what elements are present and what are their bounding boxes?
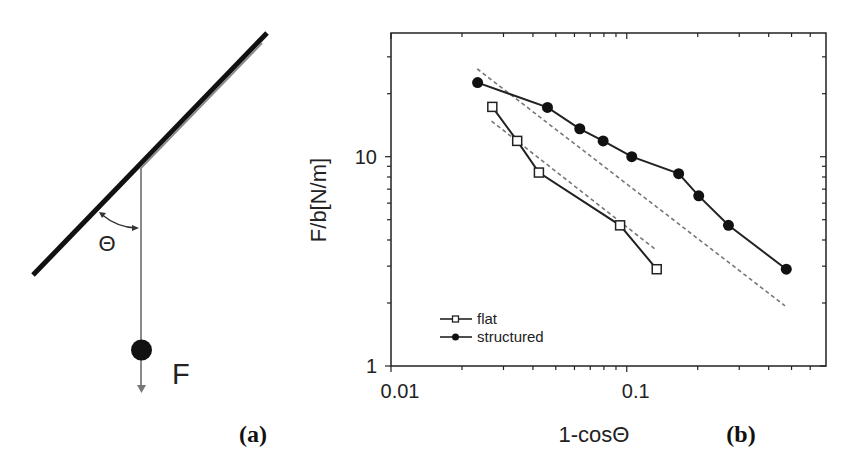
y-tick-label: 10 xyxy=(355,146,377,168)
x-tick-label: 0.1 xyxy=(622,380,650,402)
data-point xyxy=(626,151,637,162)
data-point xyxy=(534,168,543,177)
data-point xyxy=(472,77,483,88)
data-point xyxy=(693,190,704,201)
y-axis-label: F/b[N/m] xyxy=(306,158,331,242)
data-point xyxy=(673,168,684,179)
data-point xyxy=(723,220,734,231)
legend-square-icon xyxy=(453,316,459,322)
data-point xyxy=(513,136,522,145)
force-label: F xyxy=(172,358,190,390)
data-point xyxy=(488,102,497,111)
angle-arc-icon xyxy=(101,214,137,228)
data-point xyxy=(781,264,792,275)
data-point xyxy=(616,221,625,230)
data-point xyxy=(542,102,553,113)
figure: Θ F (a) 0.010.1110 flatstructured F/b[N/… xyxy=(0,0,850,475)
series-structured xyxy=(472,77,792,275)
panel-a-label: (a) xyxy=(239,421,267,447)
weight-ball xyxy=(131,340,152,361)
series-line xyxy=(492,107,656,269)
force-arrowhead-icon xyxy=(137,385,146,393)
legend-label: flat xyxy=(477,310,498,327)
panel-b-label: (b) xyxy=(726,421,755,447)
legend: flatstructured xyxy=(440,310,544,345)
figure-canvas: Θ F (a) 0.010.1110 flatstructured F/b[N/… xyxy=(0,0,850,475)
data-point xyxy=(598,135,609,146)
tape-attached-line xyxy=(141,43,262,168)
y-tick-label: 1 xyxy=(366,355,377,377)
data-point xyxy=(652,265,661,274)
tick-labels: 0.010.1110 xyxy=(355,146,650,402)
data-point xyxy=(574,123,585,134)
arc-arrowhead-right-icon xyxy=(132,225,139,231)
legend-label: structured xyxy=(477,328,544,345)
fit-lines xyxy=(477,69,785,306)
panel-a-schematic: Θ F (a) xyxy=(33,33,267,447)
data-series xyxy=(472,77,792,275)
theta-label: Θ xyxy=(98,231,115,256)
legend-circle-icon xyxy=(452,334,459,341)
legend-item-structured: structured xyxy=(440,328,544,345)
panel-b-chart: 0.010.1110 flatstructured F/b[N/m] 1-cos… xyxy=(306,33,826,447)
x-tick-label: 0.01 xyxy=(381,380,420,402)
axis-ticks xyxy=(385,33,826,372)
x-axis-label: 1-cosΘ xyxy=(559,422,630,447)
series-line xyxy=(478,83,787,270)
legend-item-flat: flat xyxy=(440,310,498,327)
substrate-line xyxy=(33,33,267,275)
fit-line-structured xyxy=(477,69,785,306)
